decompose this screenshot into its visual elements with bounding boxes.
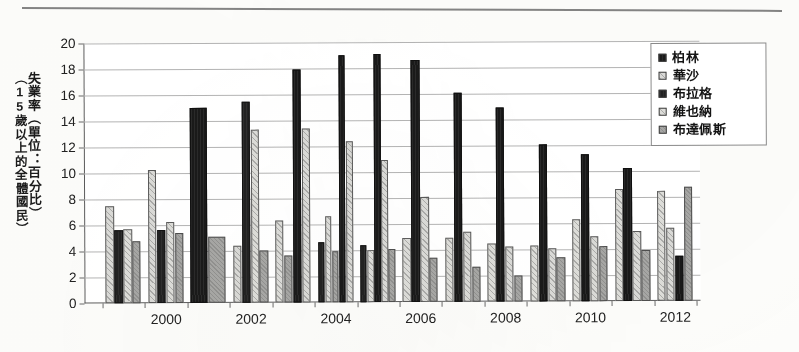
x-axis-tick [357, 302, 358, 307]
bar [157, 230, 166, 303]
legend-swatch-icon [659, 126, 667, 134]
bar [250, 130, 259, 303]
bar [420, 197, 429, 302]
bar [318, 243, 325, 303]
bar [581, 154, 590, 301]
bar [175, 233, 184, 303]
y-axis-label-sub: （15歲以上的全體國民） [12, 72, 28, 236]
bar [642, 250, 651, 301]
x-axis-tick [654, 301, 655, 306]
bar [292, 70, 301, 303]
x-axis-tick [187, 303, 188, 308]
bar [538, 144, 547, 301]
y-axis-label: 失業率（單位：百分比） （15歲以上的全體國民） [12, 72, 43, 287]
bar [633, 231, 642, 301]
x-axis-tick [527, 301, 528, 306]
bar [453, 92, 462, 301]
plot-area: 02468101214161820 2000200220042006200820… [83, 41, 700, 304]
bar [389, 249, 396, 302]
x-axis-tick-label: 2004 [320, 310, 351, 326]
bar [260, 251, 269, 303]
y-axis-tick-label: 6 [69, 218, 77, 233]
bar [346, 141, 353, 302]
y-axis-tick-label: 16 [61, 88, 76, 103]
legend-swatch-icon [659, 72, 667, 80]
y-axis-tick-label: 2 [69, 270, 77, 285]
x-axis-tick-label: 2008 [490, 309, 521, 325]
bar [325, 217, 332, 303]
x-axis-tick [569, 301, 570, 306]
x-axis-tick [315, 302, 316, 307]
bar [445, 238, 454, 302]
bar [338, 55, 346, 302]
bar-chart-figure: 失業率（單位：百分比） （15歲以上的全體國民） 024681012141618… [0, 0, 799, 352]
legend-swatch-icon [659, 108, 667, 116]
x-axis-tick-label: 2000 [151, 311, 182, 327]
bar [166, 222, 175, 303]
bar [381, 160, 388, 302]
x-axis-tick [442, 302, 443, 307]
bar [123, 229, 132, 303]
bar [367, 250, 374, 302]
legend-item[interactable]: 維也納 [659, 102, 760, 120]
bar [496, 108, 505, 302]
bar [429, 258, 437, 302]
y-axis-tick-label: 8 [69, 192, 77, 207]
legend-swatch-icon [658, 54, 666, 62]
bar [241, 101, 250, 303]
y-axis-tick-label: 4 [69, 244, 77, 259]
bar [623, 168, 632, 301]
y-axis-tick [80, 303, 85, 304]
bar [548, 248, 557, 301]
bar [115, 230, 124, 303]
bar [684, 186, 693, 300]
bar-series-container [83, 41, 700, 304]
legend-item[interactable]: 柏林 [658, 48, 759, 66]
y-axis-tick-label: 18 [60, 62, 75, 77]
legend-swatch-icon [659, 90, 667, 98]
legend-item-label: 華沙 [673, 69, 700, 83]
bar [360, 245, 367, 302]
bar [302, 128, 311, 302]
x-axis-tick [484, 302, 485, 307]
bar [599, 247, 608, 302]
y-axis-tick-label: 20 [60, 36, 75, 51]
bar [233, 246, 242, 303]
legend-item[interactable]: 布達佩斯 [659, 120, 760, 138]
bar [675, 255, 683, 301]
y-axis-tick-label: 10 [61, 166, 76, 181]
y-axis-tick-label: 0 [69, 296, 77, 311]
legend-item-label: 柏林 [672, 51, 699, 65]
bar [106, 206, 115, 304]
bar [530, 246, 539, 302]
x-axis-tick [230, 303, 231, 308]
bar [374, 54, 382, 302]
bar [284, 256, 293, 303]
scanned-page: 失業率（單位：百分比） （15歲以上的全體國民） 024681012141618… [0, 0, 799, 352]
legend-item[interactable]: 華沙 [659, 66, 760, 84]
x-axis-tick [697, 301, 698, 306]
bar [332, 252, 339, 303]
bar [472, 267, 480, 302]
bar [208, 236, 226, 302]
x-axis-tick [103, 303, 104, 308]
bar [590, 236, 599, 301]
y-axis-tick-label: 12 [61, 140, 76, 155]
bar [463, 232, 472, 302]
x-axis-tick-label: 2002 [235, 311, 266, 327]
x-axis-tick-label: 2012 [660, 309, 691, 325]
bar [411, 60, 420, 302]
bar [514, 275, 522, 301]
x-axis-tick [612, 301, 613, 306]
bar [505, 247, 514, 302]
legend-item[interactable]: 布拉格 [659, 84, 760, 102]
bar [666, 228, 675, 301]
bar [190, 108, 208, 303]
x-axis-tick [272, 303, 273, 308]
bar [488, 243, 497, 302]
legend-item-label: 布達佩斯 [673, 123, 726, 137]
bar [132, 241, 141, 303]
legend-item-label: 維也納 [673, 105, 713, 119]
x-axis-tick-label: 2010 [575, 309, 606, 325]
chart-legend: 柏林華沙布拉格維也納布達佩斯 [650, 42, 766, 146]
